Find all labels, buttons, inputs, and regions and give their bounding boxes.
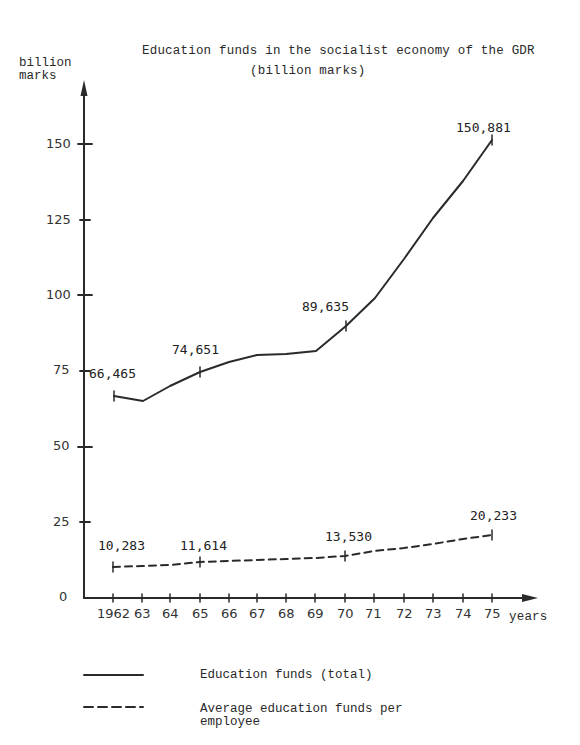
label-total-1962: 66,465: [89, 366, 136, 381]
x-tick-63: 63: [134, 606, 151, 621]
label-avg-1965: 11,614: [180, 538, 227, 553]
label-total-1970: 89,635: [302, 299, 349, 314]
label-total-1965: 74,651: [172, 342, 219, 357]
x-tick-66: 66: [221, 606, 238, 621]
series-total-line: [114, 140, 492, 401]
chart-plot: [0, 0, 580, 745]
series-total-markers: [114, 135, 492, 401]
y-tick-50: 50: [53, 438, 70, 453]
series-average-line: [113, 535, 492, 567]
y-tick-25: 25: [53, 514, 70, 529]
y-tick-150: 150: [46, 136, 71, 151]
y-tick-0: 0: [59, 589, 67, 604]
x-tick-1962: 1962: [97, 606, 130, 621]
legend-solid-label: Education funds (total): [200, 669, 373, 682]
label-avg-1962: 10,283: [98, 538, 145, 553]
x-tick-70: 70: [337, 606, 354, 621]
legend-dashed-label-line2: employee: [200, 716, 403, 729]
x-tick-69: 69: [307, 606, 324, 621]
y-axis-arrow: [81, 80, 88, 96]
y-tick-75: 75: [53, 362, 70, 377]
x-tick-64: 64: [162, 606, 179, 621]
x-tick-73: 73: [425, 606, 442, 621]
x-axis-label: years: [509, 610, 548, 624]
label-avg-1970: 13,530: [325, 529, 372, 544]
label-avg-1975: 20,233: [470, 508, 517, 523]
x-tick-74: 74: [455, 606, 472, 621]
label-total-1975: 150,881: [456, 120, 511, 135]
x-tick-65: 65: [192, 606, 209, 621]
y-tick-100: 100: [46, 287, 71, 302]
x-axis-arrow: [522, 594, 538, 602]
legend-dashed-label: Average education funds per employee: [200, 703, 403, 729]
x-tick-71: 71: [365, 606, 382, 621]
y-tick-125: 125: [46, 212, 71, 227]
x-tick-72: 72: [396, 606, 413, 621]
x-tick-68: 68: [278, 606, 295, 621]
series-average-markers: [113, 530, 492, 572]
x-tick-67: 67: [249, 606, 266, 621]
x-tick-75: 75: [484, 606, 501, 621]
